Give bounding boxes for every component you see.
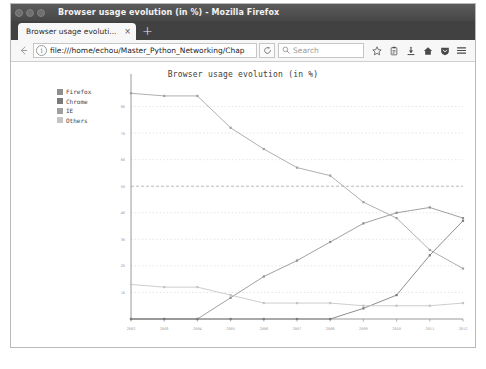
tab-close-icon[interactable]: × <box>124 28 131 36</box>
search-placeholder: Search <box>293 46 319 55</box>
download-icon[interactable] <box>402 42 419 59</box>
y-tick-label: 50 <box>121 185 125 189</box>
new-tab-button[interactable]: + <box>142 24 153 37</box>
x-tick-label: 2011 <box>425 327 434 331</box>
library-icon[interactable] <box>385 42 402 59</box>
window-maximize-button[interactable] <box>37 9 45 17</box>
series-ie <box>130 92 464 269</box>
browser-window: Browser usage evolution (in %) - Mozilla… <box>10 3 476 348</box>
series-others <box>130 283 464 306</box>
page-info-icon[interactable]: i <box>36 45 47 56</box>
y-tick-label: 80 <box>121 105 125 109</box>
bookmark-star-icon[interactable] <box>368 42 385 59</box>
hamburger-menu-icon[interactable] <box>453 42 470 59</box>
y-tick-label: 40 <box>121 211 125 215</box>
x-tick-label: 2005 <box>226 327 235 331</box>
url-text: file:///home/echou/Master_Python_Network… <box>50 46 254 55</box>
y-tick-label: 10 <box>121 291 125 295</box>
page-content: Browser usage evolution (in %) Firefox C… <box>11 62 475 347</box>
y-tick-label: 30 <box>121 238 125 242</box>
pocket-shield-icon[interactable] <box>436 42 453 59</box>
tab-title: Browser usage evoluti... <box>26 27 119 36</box>
navigation-toolbar: i file:///home/echou/Master_Python_Netwo… <box>11 40 475 62</box>
x-tick-label: 2010 <box>392 327 401 331</box>
chart-plot-area: 2002200320042005200620072008200920102011… <box>11 62 475 347</box>
url-bar[interactable]: i file:///home/echou/Master_Python_Netwo… <box>33 43 257 58</box>
x-tick-label: 2008 <box>326 327 335 331</box>
browser-usage-chart: Browser usage evolution (in %) Firefox C… <box>11 62 475 347</box>
x-tick-label: 2007 <box>293 327 302 331</box>
y-tick-label: 20 <box>121 264 125 268</box>
back-arrow-icon[interactable] <box>16 43 31 58</box>
x-tick-label: 2006 <box>259 327 268 331</box>
y-tick-label: 70 <box>121 132 125 136</box>
x-tick-label: 2002 <box>127 327 136 331</box>
window-title-bar: Browser usage evolution (in %) - Mozilla… <box>11 4 475 21</box>
search-icon <box>282 46 290 56</box>
home-icon[interactable] <box>419 42 436 59</box>
y-tick-label: 60 <box>121 158 125 162</box>
x-tick-label: 2012 <box>459 327 468 331</box>
search-input[interactable]: Search <box>278 43 364 58</box>
chart-gridlines <box>131 107 463 293</box>
page-root: Browser usage evolution (in %) - Mozilla… <box>0 0 486 369</box>
chart-axes <box>131 74 463 322</box>
x-tick-label: 2004 <box>193 327 202 331</box>
x-tick-label: 2009 <box>359 327 368 331</box>
chart-series-lines <box>130 92 464 320</box>
browser-tab-active[interactable]: Browser usage evoluti... × <box>18 23 136 40</box>
chart-y-tick-labels: 1020304050607080 <box>121 105 125 295</box>
window-minimize-button[interactable] <box>26 9 34 17</box>
window-title: Browser usage evolution (in %) - Mozilla… <box>58 8 279 17</box>
window-close-button[interactable] <box>15 9 23 17</box>
tab-strip: Browser usage evoluti... × + <box>11 21 475 40</box>
reload-icon[interactable] <box>259 43 275 58</box>
x-tick-label: 2003 <box>160 327 169 331</box>
chart-x-tick-labels: 2002200320042005200620072008200920102011… <box>127 327 468 331</box>
